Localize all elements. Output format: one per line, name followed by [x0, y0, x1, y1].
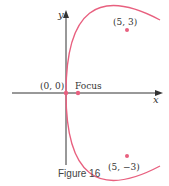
x-axis-label: x [153, 94, 159, 105]
point-5-3 [125, 28, 129, 32]
parabola-diagram: y x (0, 0) Focus (5, 3) (5, −3) [0, 0, 169, 186]
focus-point [76, 91, 80, 95]
y-axis-arrow-icon [63, 10, 69, 18]
point-5-neg3-label: (5, −3) [108, 162, 140, 172]
y-axis-label: y [57, 9, 64, 20]
figure-caption: Figure 16 [58, 168, 100, 179]
focus-label: Focus [75, 81, 102, 91]
origin-label: (0, 0) [40, 81, 64, 91]
point-5-3-label: (5, 3) [113, 17, 137, 27]
origin-point [64, 91, 68, 95]
point-5-neg3 [125, 154, 129, 158]
